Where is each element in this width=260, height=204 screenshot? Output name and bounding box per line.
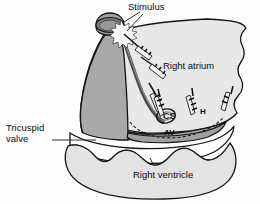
label-tricuspid-valve-line2: valve: [6, 133, 28, 144]
label-right-ventricle: Right ventricle: [133, 169, 193, 180]
label-coronary-sinus: CS: [163, 111, 176, 121]
label-stimulus: Stimulus: [128, 1, 165, 12]
figure-canvas: Stimulus Right atrium Tricuspid valve Ri…: [0, 0, 260, 204]
label-tricuspid-valve-line1: Tricuspid: [6, 122, 44, 133]
label-his-bundle: H: [200, 107, 206, 116]
label-av-node: AV: [164, 128, 175, 137]
anatomy-illustration: Stimulus Right atrium Tricuspid valve Ri…: [0, 0, 260, 204]
stimulus-leader-line: [124, 12, 140, 22]
label-right-atrium: Right atrium: [163, 60, 214, 71]
